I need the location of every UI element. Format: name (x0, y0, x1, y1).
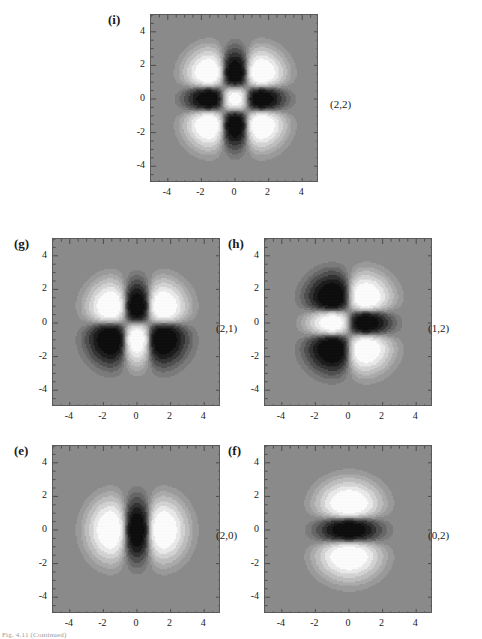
x-axis-tick-label: -2 (190, 186, 210, 197)
y-axis-tick-label: 4 (125, 25, 145, 36)
x-axis-tick-label: 2 (372, 410, 392, 421)
x-axis-tick-label: 4 (193, 617, 213, 628)
x-axis-tick-label: 4 (291, 186, 311, 197)
y-axis-tick-label: 4 (239, 249, 259, 260)
mode-label-e: (2,0) (216, 529, 237, 541)
contour-plot-i (150, 14, 318, 182)
x-axis-tick-label: -4 (59, 617, 79, 628)
x-axis-tick-label: 0 (126, 410, 146, 421)
y-axis-tick-label: 2 (27, 489, 47, 500)
x-axis-tick-label: 0 (126, 617, 146, 628)
x-axis-tick-label: -4 (271, 617, 291, 628)
y-axis-tick-label: 0 (239, 523, 259, 534)
y-axis-tick-label: 0 (125, 92, 145, 103)
mode-label-h: (1,2) (428, 322, 449, 334)
y-axis-tick-label: 4 (239, 456, 259, 467)
mode-label-i: (2,2) (330, 98, 351, 110)
y-axis-tick-label: -4 (27, 383, 47, 394)
x-axis-tick-label: 4 (405, 617, 425, 628)
figure-caption: Fig. 4.11 (Continued) (2, 631, 67, 639)
y-axis-tick-label: -2 (27, 557, 47, 568)
mode-label-f: (0,2) (428, 529, 449, 541)
x-axis-tick-label: 0 (338, 617, 358, 628)
x-axis-tick-label: -4 (59, 410, 79, 421)
y-axis-tick-label: -2 (239, 350, 259, 361)
y-axis-tick-label: 2 (27, 282, 47, 293)
mode-label-g: (2,1) (216, 322, 237, 334)
figure-container: (i)420-2-4-4-2024(2,2)(g)420-2-4-4-2024(… (0, 0, 482, 639)
y-axis-tick-label: -4 (239, 590, 259, 601)
x-axis-tick-label: 0 (338, 410, 358, 421)
y-axis-tick-label: 2 (125, 58, 145, 69)
y-axis-tick-label: -4 (125, 159, 145, 170)
x-axis-tick-label: -4 (271, 410, 291, 421)
x-axis-tick-label: 4 (193, 410, 213, 421)
y-axis-tick-label: 0 (27, 316, 47, 327)
y-axis-tick-label: -4 (239, 383, 259, 394)
x-axis-tick-label: -2 (92, 410, 112, 421)
contour-plot-e (52, 445, 220, 613)
x-axis-tick-label: 2 (258, 186, 278, 197)
x-axis-tick-label: 4 (405, 410, 425, 421)
y-axis-tick-label: 0 (27, 523, 47, 534)
y-axis-tick-label: 0 (239, 316, 259, 327)
y-axis-tick-label: 4 (27, 456, 47, 467)
y-axis-tick-label: -2 (27, 350, 47, 361)
x-axis-tick-label: -4 (157, 186, 177, 197)
x-axis-tick-label: -2 (304, 410, 324, 421)
y-axis-tick-label: 2 (239, 282, 259, 293)
y-axis-tick-label: -2 (239, 557, 259, 568)
x-axis-tick-label: 2 (160, 410, 180, 421)
x-axis-tick-label: 2 (372, 617, 392, 628)
x-axis-tick-label: -2 (92, 617, 112, 628)
y-axis-tick-label: 4 (27, 249, 47, 260)
panel-letter-i: (i) (108, 12, 120, 28)
contour-plot-f (264, 445, 432, 613)
y-axis-tick-label: -2 (125, 126, 145, 137)
contour-plot-h (264, 238, 432, 406)
contour-plot-g (52, 238, 220, 406)
x-axis-tick-label: -2 (304, 617, 324, 628)
x-axis-tick-label: 0 (224, 186, 244, 197)
y-axis-tick-label: 2 (239, 489, 259, 500)
y-axis-tick-label: -4 (27, 590, 47, 601)
x-axis-tick-label: 2 (160, 617, 180, 628)
